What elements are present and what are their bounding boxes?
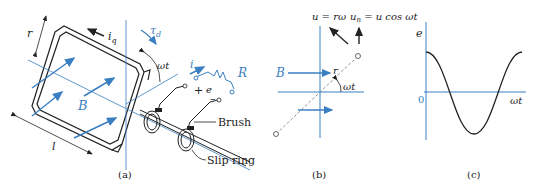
panel-b: u = rω un = u cos ωt B r ωt (b): [274, 11, 419, 180]
label-plus: +: [194, 84, 203, 97]
panel-a: r l iq τd ωt B + e –: [16, 16, 255, 180]
conductor-top: [356, 54, 361, 59]
label-iq: iq: [108, 30, 117, 45]
caption-c: (c): [467, 169, 481, 180]
conductor-bottom: [274, 132, 279, 137]
label-B-a: B: [77, 98, 88, 113]
caption-b: (b): [312, 169, 326, 180]
brush-1: [155, 108, 162, 112]
caption-a: (a): [118, 169, 132, 180]
label-omega-t-c: ωt: [510, 95, 523, 106]
slip-ring-1: [144, 111, 160, 133]
label-l: l: [52, 140, 56, 153]
label-omega-t-b: ωt: [343, 81, 356, 92]
panel-c: e 0 ωt (c): [416, 22, 526, 180]
label-omega-t-a: ωt: [157, 60, 170, 71]
label-R: R: [237, 66, 247, 80]
label-zero: 0: [418, 94, 424, 105]
label-slip-ring: Slip ring: [207, 154, 255, 167]
slip-ring-leader: [192, 150, 206, 160]
label-minus: –: [210, 92, 216, 105]
iq-arrow: [88, 29, 104, 36]
slip-ring-2: [178, 129, 194, 151]
terminal-plus: [183, 84, 187, 88]
label-e-c: e: [416, 27, 423, 40]
b-radius-line: [276, 56, 358, 134]
label-u-eq: u = rω: [312, 11, 346, 22]
terminal-minus: [217, 98, 221, 102]
emf-curve: [426, 52, 522, 134]
label-r-b: r: [333, 65, 339, 76]
label-r: r: [27, 27, 33, 40]
brush-lead-1: [158, 86, 184, 110]
figure-canvas: r l iq τd ωt B + e –: [0, 0, 536, 191]
label-brush: Brush: [218, 116, 251, 129]
label-i-current: i: [190, 58, 194, 71]
r-dimension: [36, 16, 46, 52]
label-B-b: B: [275, 66, 285, 80]
label-un-eq: un = u cos ωt: [350, 11, 418, 24]
label-tau-d: τd: [150, 24, 161, 39]
brush-2: [187, 126, 194, 130]
u-velocity-arrow: [330, 28, 348, 44]
b-omega-arc: [337, 80, 341, 92]
